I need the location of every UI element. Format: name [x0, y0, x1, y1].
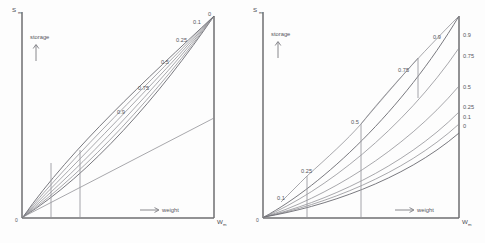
curve-label-0p25-left: 0.25	[176, 37, 187, 43]
lower-chord-left	[23, 118, 214, 217]
panel-right-plot: S m storage weight W m 0 0.9 0.75 0.5 0.…	[243, 0, 485, 243]
curve-label-0p25-right: 0.25	[301, 168, 312, 174]
curve-0p1-left	[23, 16, 214, 217]
curve-0p75-right	[264, 48, 459, 217]
origin-label-left: 0	[15, 217, 18, 223]
curve-label-0p75-right: 0.75	[398, 67, 409, 73]
panel-right: S m storage weight W m 0 0.9 0.75 0.5 0.…	[243, 0, 485, 243]
curve-label-0p1-left: 0.1	[193, 19, 201, 25]
curve-0p25-left	[23, 16, 214, 217]
curve-label-0p9-left: 0.9	[117, 109, 125, 115]
curve-0-left	[23, 16, 214, 217]
panel-left: S m storage weight W m 0 0 0.1 0.25 0.5 …	[0, 0, 242, 243]
curve-0p5-right	[264, 86, 459, 217]
loop-branch-0p75-right	[361, 58, 418, 124]
figure-container: S m storage weight W m 0 0 0.1 0.25 0.5 …	[0, 0, 485, 243]
edge-label-0p9-right: 0.9	[463, 32, 471, 38]
edge-label-0p5-right: 0.5	[463, 84, 471, 90]
y-axis-symbol-right: S	[253, 6, 257, 13]
curve-label-0p5-left: 0.5	[161, 59, 169, 65]
y-axis-subscript-right: m	[259, 10, 263, 15]
y-axis-symbol-left: S	[12, 6, 16, 13]
storage-label-left: storage	[30, 34, 49, 40]
curve-label-0p9-right: 0.9	[433, 34, 441, 40]
storage-label-right: storage	[271, 31, 290, 37]
loop-branch-0p5-right	[307, 124, 361, 176]
origin-label-right: 0	[256, 217, 259, 223]
curve-label-0p5-right: 0.5	[351, 119, 359, 125]
edge-label-0p75-right: 0.75	[463, 53, 474, 59]
loop-branch-0p9-right	[361, 16, 459, 124]
curve-0-right	[264, 133, 459, 217]
weight-label-left: weight	[161, 207, 179, 213]
edge-label-0-right: 0	[463, 123, 466, 129]
x-axis-subscript-left: m	[223, 222, 227, 227]
x-axis-subscript-right: m	[468, 222, 472, 227]
curve-0p75-left	[23, 16, 214, 217]
curve-0p25-right	[264, 112, 459, 217]
curve-label-0-left: 0	[208, 11, 211, 17]
y-axis-subscript-left: m	[18, 10, 22, 15]
weight-label-right: weight	[416, 207, 434, 213]
curve-0p5-left	[23, 16, 214, 217]
curve-label-0p75-left: 0.75	[138, 85, 149, 91]
curve-0p9-left	[23, 16, 214, 217]
edge-label-0p25-right: 0.25	[463, 104, 474, 110]
panel-left-plot: S m storage weight W m 0 0 0.1 0.25 0.5 …	[0, 0, 242, 243]
curve-label-0p1-right: 0.1	[277, 195, 285, 201]
edge-label-0p1-right: 0.1	[463, 114, 471, 120]
